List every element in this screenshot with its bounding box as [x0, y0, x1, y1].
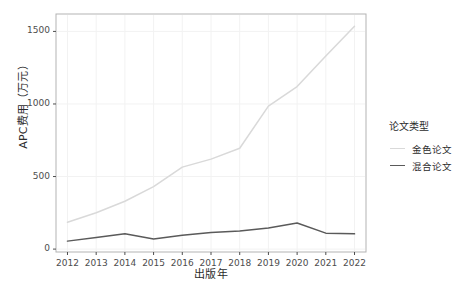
- legend-item[interactable]: 混合论文: [389, 157, 465, 174]
- y-tick-label: 0: [16, 243, 50, 253]
- y-tick-label: 1500: [16, 25, 50, 35]
- legend-title: 论文类型: [389, 118, 465, 133]
- legend-line-swatch-icon: [389, 143, 406, 154]
- chart-container: APC费用（万元） 出版年 050010001500 2012201320142…: [0, 0, 467, 287]
- legend-item[interactable]: 金色论文: [389, 140, 465, 157]
- y-tick-label: 1000: [16, 98, 50, 108]
- legend-items: 金色论文混合论文: [389, 140, 465, 174]
- legend: 论文类型 金色论文混合论文: [389, 118, 465, 174]
- legend-item-label: 金色论文: [412, 142, 452, 156]
- legend-line-swatch-icon: [389, 160, 406, 171]
- x-tick-label: 2022: [338, 258, 372, 268]
- legend-item-label: 混合论文: [412, 159, 452, 173]
- y-tick-label: 500: [16, 171, 50, 181]
